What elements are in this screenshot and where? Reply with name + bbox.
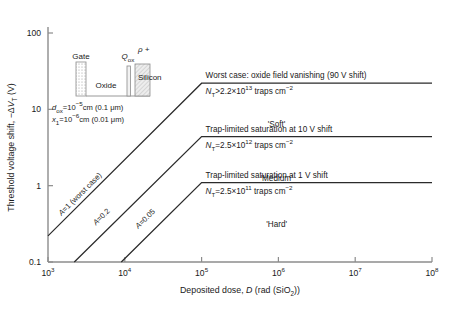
y-tick-label: 10 xyxy=(31,104,41,114)
inset-silicon-label: Silicon xyxy=(138,73,162,82)
inset-rho-label: ρ + xyxy=(137,45,150,54)
figure-threshold-voltage-shift: 1001010.1103104105106107108 A=1 (worst c… xyxy=(0,0,455,316)
y-tick-label: 100 xyxy=(27,28,42,38)
inset-param-1: dox=10−5cm (0.1 μm) xyxy=(52,100,124,114)
inset-param-2: x1=10−6cm (0.01 μm) xyxy=(51,112,125,126)
band-headline-hard: Trap-limited saturation at 1 V shift xyxy=(206,171,329,180)
inset-gate-label: Gate xyxy=(72,52,90,61)
band-quality-hard: 'Hard' xyxy=(266,220,287,229)
band-headline-medium: Trap-limited saturation at 10 V shift xyxy=(206,125,333,134)
inset-gate-block xyxy=(76,62,86,96)
inset-oxide-label: Oxide xyxy=(96,81,117,90)
inset-qox-bar xyxy=(127,66,131,96)
y-tick-label: 1 xyxy=(36,181,41,191)
chart-background xyxy=(0,0,455,316)
y-tick-label: 0.1 xyxy=(29,257,41,267)
band-headline-soft: Worst case: oxide field vanishing (90 V … xyxy=(206,71,367,80)
chart-canvas: 1001010.1103104105106107108 A=1 (worst c… xyxy=(0,0,455,316)
